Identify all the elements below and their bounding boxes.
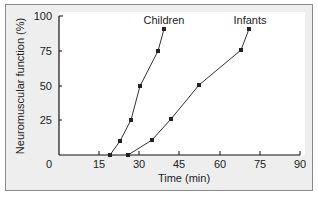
x-axis-title: Time (min) bbox=[158, 172, 210, 184]
line-chart: 100 75 50 25 0 15 30 45 60 75 90 Time (m… bbox=[0, 0, 318, 199]
x-tick-label: 45 bbox=[173, 158, 185, 170]
x-tick-label: 60 bbox=[214, 158, 226, 170]
y-tick-label: 0 bbox=[46, 158, 52, 170]
x-tick-label: 15 bbox=[93, 158, 105, 170]
series-label-infants: Infants bbox=[233, 14, 267, 26]
plot-area bbox=[59, 12, 305, 155]
y-tick-label: 50 bbox=[40, 80, 52, 92]
y-tick-label: 75 bbox=[40, 45, 52, 57]
x-tick-label: 30 bbox=[133, 158, 145, 170]
y-tick-label: 100 bbox=[34, 10, 52, 22]
y-axis-title: Neuromuscular function (%) bbox=[14, 18, 26, 154]
y-tick-label: 25 bbox=[40, 114, 52, 126]
series-label-children: Children bbox=[144, 14, 185, 26]
x-tick-label: 90 bbox=[294, 158, 306, 170]
x-tick-label: 75 bbox=[254, 158, 266, 170]
